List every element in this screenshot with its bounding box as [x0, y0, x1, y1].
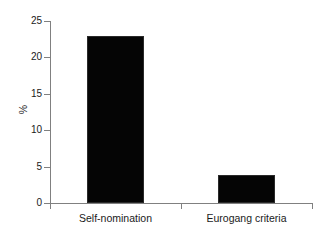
y-tick-label: 5: [0, 162, 42, 172]
y-tick-mark: [44, 21, 50, 22]
x-category-label: Self-nomination: [50, 212, 181, 224]
bar: [218, 175, 275, 203]
y-tick-label: 0: [0, 198, 42, 208]
x-tick-mark: [50, 203, 51, 209]
x-category-label: Eurogang criteria: [181, 212, 312, 224]
y-axis-title: %: [18, 99, 29, 121]
x-tick-mark: [181, 203, 182, 209]
y-tick-mark: [44, 94, 50, 95]
y-tick-label: 25: [0, 16, 42, 26]
y-tick-label: 20: [0, 52, 42, 62]
bar-chart-figure: % 0510152025 Self-nominationEurogang cri…: [0, 0, 326, 237]
bar: [87, 36, 144, 203]
y-tick-mark: [44, 57, 50, 58]
x-tick-mark: [312, 203, 313, 209]
y-axis-line: [50, 21, 51, 204]
y-tick-mark: [44, 130, 50, 131]
y-tick-label: 10: [0, 125, 42, 135]
y-tick-mark: [44, 167, 50, 168]
y-tick-label: 15: [0, 89, 42, 99]
